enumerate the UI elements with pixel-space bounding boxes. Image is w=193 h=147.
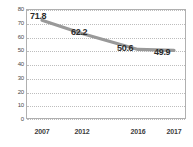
series-line-group xyxy=(26,9,186,119)
x-tick-label-2012: 2012 xyxy=(62,128,102,136)
y-tick-label-30: 30 xyxy=(6,75,24,81)
line-chart: 80 70 60 50 40 30 20 10 0 71.8 62.2 50.6… xyxy=(0,0,193,147)
data-label-2016: 50.6 xyxy=(117,44,133,53)
x-tick-label-2017: 2017 xyxy=(154,128,193,136)
y-tick-label-40: 40 xyxy=(6,61,24,67)
y-tick-label-10: 10 xyxy=(6,102,24,108)
y-tick-label-20: 20 xyxy=(6,89,24,95)
x-tick-label-2016: 2016 xyxy=(118,128,158,136)
x-tick-label-2007: 2007 xyxy=(22,128,62,136)
y-tick-label-80: 80 xyxy=(6,6,24,12)
data-label-2012: 62.2 xyxy=(71,28,87,37)
series-line-1 xyxy=(42,20,174,50)
y-tick-label-70: 70 xyxy=(6,20,24,26)
data-label-2017: 49.9 xyxy=(154,48,170,57)
data-label-2007: 71.8 xyxy=(30,12,46,21)
y-tick-label-50: 50 xyxy=(6,47,24,53)
y-tick-label-0: 0 xyxy=(6,116,24,122)
gridline-0 xyxy=(27,119,185,120)
y-tick-label-60: 60 xyxy=(6,34,24,40)
